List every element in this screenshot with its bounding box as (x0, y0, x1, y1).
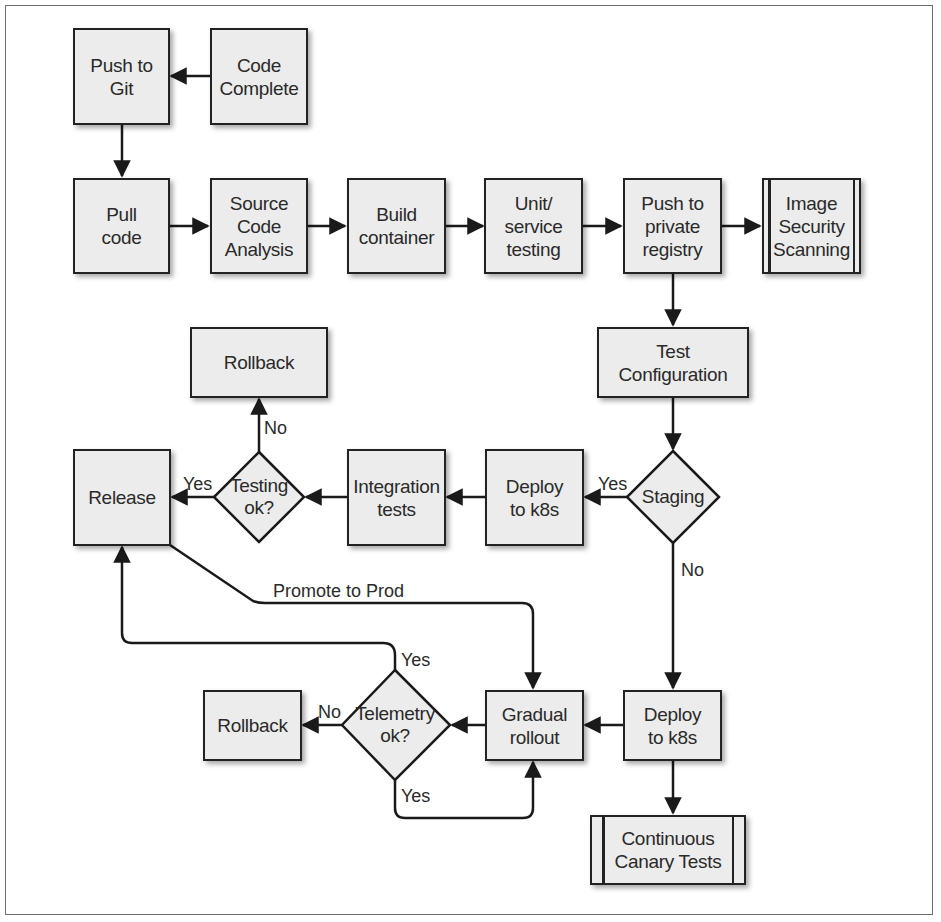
edge-label-staging-no: No (681, 560, 704, 581)
node-deploy-k8s-staging: Deploy to k8s (485, 449, 584, 546)
node-label: Push to Git (90, 54, 152, 100)
edge-label-telemetry-no: No (318, 702, 341, 723)
node-label: Deploy to k8s (506, 475, 563, 521)
node-label: Continuous Canary Tests (615, 827, 722, 873)
node-label: Rollback (217, 714, 287, 737)
node-label: Pull code (101, 203, 141, 249)
node-label: Rollback (224, 351, 294, 374)
node-pull-code: Pull code (73, 178, 170, 274)
node-label: Image Security Scanning (773, 192, 850, 261)
node-label: Source Code Analysis (225, 192, 293, 261)
node-label: Deploy to k8s (644, 703, 701, 749)
node-label: Code Complete (220, 54, 299, 100)
staging-label: Staging (633, 486, 713, 508)
node-code-complete: Code Complete (210, 28, 308, 125)
node-build-container: Build container (347, 178, 446, 274)
node-integration-tests: Integration tests (347, 449, 446, 546)
node-rollback-top: Rollback (190, 327, 328, 398)
edge-label-telemetry-yes-top: Yes (401, 650, 430, 671)
node-deploy-k8s-prod: Deploy to k8s (623, 690, 722, 761)
node-continuous-canary-tests: Continuous Canary Tests (590, 815, 746, 885)
node-source-code-analysis: Source Code Analysis (210, 178, 308, 274)
testing-ok-label: Testing ok? (219, 475, 299, 519)
node-label: Test Configuration (618, 340, 727, 386)
node-push-private-registry: Push to private registry (623, 178, 722, 274)
node-label: Gradual rollout (502, 703, 568, 749)
node-label: Unit/ service testing (504, 192, 562, 261)
edge-label-telemetry-yes-bottom: Yes (401, 786, 430, 807)
edge-label-testing-no: No (264, 418, 287, 439)
node-label: Push to private registry (641, 192, 703, 261)
node-push-to-git: Push to Git (73, 28, 170, 125)
node-test-configuration: Test Configuration (597, 327, 749, 398)
node-label: Build container (359, 203, 434, 249)
node-unit-service-testing: Unit/ service testing (484, 178, 583, 274)
node-label: Integration tests (353, 475, 440, 521)
edge-label-testing-yes: Yes (183, 474, 212, 495)
node-label: Release (88, 486, 156, 509)
node-release: Release (73, 449, 171, 546)
node-rollback-bottom: Rollback (203, 690, 302, 761)
telemetry-ok-label: Telemetry ok? (340, 703, 450, 747)
edge-label-promote-to-prod: Promote to Prod (273, 581, 404, 602)
node-image-security-scanning: Image Security Scanning (762, 178, 861, 274)
edge-label-staging-yes: Yes (598, 474, 627, 495)
node-gradual-rollout: Gradual rollout (485, 690, 584, 761)
